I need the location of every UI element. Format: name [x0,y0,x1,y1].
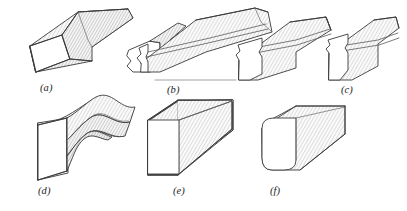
caption-d: (d) [38,185,51,196]
part-c-necked-bar-right [326,17,399,80]
caption-b: (b) [167,84,180,95]
forging-stages-figure: (a) (b) (c) (d) (e) (f) [0,0,407,211]
part-e-square-bar [148,100,233,175]
caption-c: (c) [341,84,353,95]
caption-f: (f) [270,185,280,196]
part-d-bent-bar [38,95,135,180]
part-a-tapered-bar-blank [30,9,133,72]
caption-e: (e) [173,185,185,196]
caption-a: (a) [40,82,53,93]
part-f-rounded-square-bar [262,106,345,170]
figure-illustration [0,0,407,211]
